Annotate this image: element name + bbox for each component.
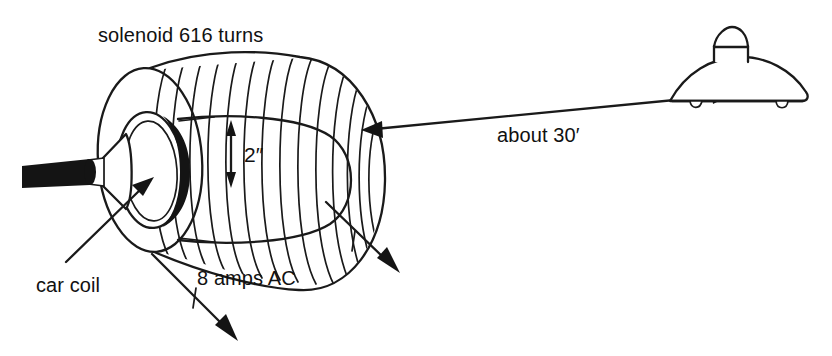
solenoid-ufo-diagram: 2″ about 30′ <box>0 0 832 356</box>
saucer-dome-collar <box>714 46 748 62</box>
dimension-arrowhead-down <box>226 172 236 188</box>
saucer-disc <box>670 57 808 101</box>
field-arrow-right-head <box>377 247 400 273</box>
current-label: 8 amps AC <box>197 267 296 289</box>
car-coil-label: car coil <box>36 274 100 296</box>
cable-body <box>22 159 90 188</box>
cable-end-cap <box>84 159 96 185</box>
diagram-canvas: 2″ about 30′ <box>0 0 832 356</box>
distance-label: about 30′ <box>497 124 580 146</box>
field-arrow-left-head <box>215 314 238 341</box>
power-cable <box>22 159 96 188</box>
saucer-pod-right <box>776 101 788 108</box>
saucer-pod-left <box>690 101 702 107</box>
solenoid-coil <box>88 52 385 290</box>
dimension-label: 2″ <box>244 143 264 166</box>
solenoid-label: solenoid 616 turns <box>98 24 263 46</box>
flying-saucer <box>670 27 808 108</box>
saucer-dome-cap <box>714 27 748 47</box>
